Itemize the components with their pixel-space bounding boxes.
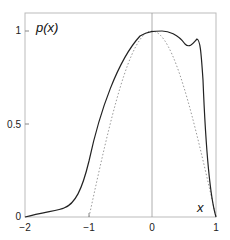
ytick-0.5: 0.5 (7, 119, 21, 130)
ytick-0: 0 (15, 211, 21, 222)
plot-frame (25, 13, 216, 217)
chart: 1 0.5 0 −2 −1 0 1 p(x) x (0, 0, 230, 240)
reference-curve (89, 31, 216, 217)
xtick--2: −2 (19, 222, 31, 233)
xtick-1: 1 (213, 222, 219, 233)
xlabel: x (196, 200, 204, 215)
p-curve (25, 31, 216, 217)
ylabel: p(x) (35, 20, 58, 35)
ytick-1: 1 (15, 25, 21, 36)
xtick-0: 0 (149, 222, 155, 233)
xtick--1: −1 (83, 222, 95, 233)
